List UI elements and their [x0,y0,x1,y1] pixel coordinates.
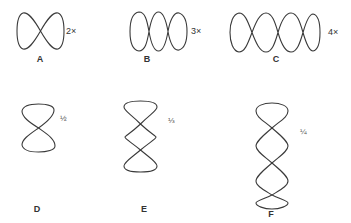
figure-c-annotation: 4× [328,28,338,37]
figure-e-curve [124,101,157,172]
figure-d-curve [22,104,55,152]
figure-a-annotation: 2× [66,27,76,36]
figure-f-label: F [268,210,274,219]
figure-a-curve [17,13,64,49]
figure-d-label: D [34,205,41,214]
figure-e-label: E [141,205,147,214]
figure-f-curve [256,103,288,209]
figure-d-annotation: ½ [60,115,67,123]
figure-b-annotation: 3× [191,27,201,36]
figure-c-label: C [273,55,280,64]
figure-b-label: B [144,55,151,64]
figure-f-annotation: ¼ [300,128,307,136]
lissajous-figures [0,0,351,223]
figure-e-annotation: ⅓ [168,117,175,125]
figure-a-label: A [37,55,44,64]
figure-b-curve [130,12,187,51]
figure-c-curve [230,13,320,52]
